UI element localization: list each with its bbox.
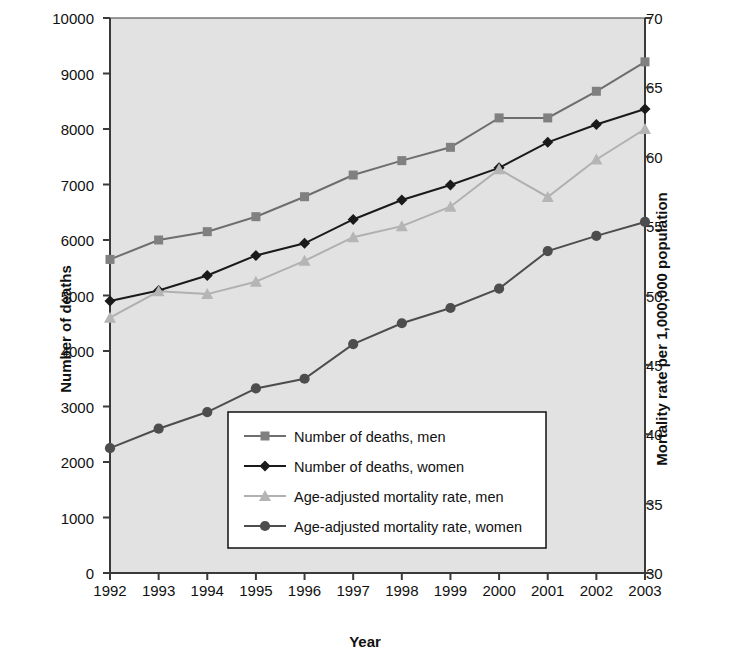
plot-area: Number of deaths, menNumber of deaths, w… <box>0 0 730 658</box>
chart-container: Number of deaths Mortality rate per 1,00… <box>0 0 730 658</box>
legend-label: Age-adjusted mortality rate, men <box>294 489 504 505</box>
legend-label: Age-adjusted mortality rate, women <box>294 519 522 535</box>
legend: Number of deaths, menNumber of deaths, w… <box>228 412 546 548</box>
legend-label: Number of deaths, women <box>294 459 464 475</box>
legend-label: Number of deaths, men <box>294 429 446 445</box>
